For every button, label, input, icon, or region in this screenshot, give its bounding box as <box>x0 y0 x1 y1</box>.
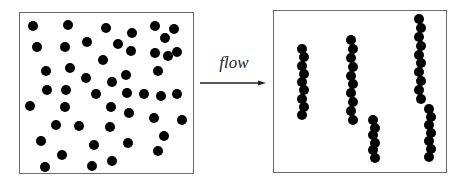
particle-dot <box>160 33 170 43</box>
particle-dot <box>177 115 187 125</box>
particle-dot <box>172 89 182 99</box>
particle-dot <box>98 55 108 65</box>
particle-dot <box>32 42 42 52</box>
particle-dot <box>105 122 115 132</box>
particle-dot <box>60 42 70 52</box>
particle-dot <box>87 161 97 171</box>
particle-dot <box>156 91 166 101</box>
particle-dot <box>41 66 51 76</box>
particle-dot <box>74 121 84 131</box>
particle-dot <box>61 85 71 95</box>
particle-dot <box>124 108 134 118</box>
particle-dot <box>28 21 38 31</box>
particle-dot <box>123 138 133 148</box>
particle-dot <box>107 77 117 87</box>
particle-dot <box>65 63 75 73</box>
particle-dot <box>153 146 163 156</box>
particle-dot <box>169 24 179 34</box>
particle-dot <box>150 48 160 58</box>
particle-dot <box>91 89 101 99</box>
particle-dot <box>42 85 52 95</box>
particle-dot <box>107 156 117 166</box>
chain-particle-dot <box>416 94 426 104</box>
particle-dot <box>101 23 111 33</box>
particle-dot <box>113 39 123 49</box>
particle-dot <box>122 88 132 98</box>
particle-dot <box>51 120 61 130</box>
particle-dot <box>89 140 99 150</box>
particle-dot <box>153 66 163 76</box>
particle-dot <box>40 162 50 172</box>
particle-dot <box>150 21 160 31</box>
particle-dot <box>106 102 116 112</box>
particle-dot <box>81 73 91 83</box>
particle-dot <box>149 113 159 123</box>
particle-dot <box>159 131 169 141</box>
chain-particle-dot <box>370 153 380 163</box>
particle-dot <box>139 89 149 99</box>
particle-dot <box>82 37 92 47</box>
chain-particle-dot <box>424 152 434 162</box>
particle-dot <box>25 101 35 111</box>
particle-dot <box>60 102 70 112</box>
arrow-right-icon <box>200 70 266 90</box>
particle-dot <box>36 136 46 146</box>
particle-dot <box>126 46 136 56</box>
chain-particle-dot <box>297 110 307 120</box>
particle-dot <box>121 70 131 80</box>
particle-dot <box>63 20 73 30</box>
particle-dot <box>172 47 182 57</box>
particle-dot <box>127 28 137 38</box>
chain-particle-dot <box>348 115 358 125</box>
particle-dot <box>57 150 67 160</box>
